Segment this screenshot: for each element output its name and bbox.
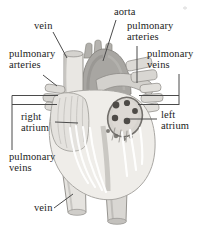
scan-artifact: [183, 6, 187, 10]
label-pulmonary-veins-right: pulmonary veins: [147, 48, 193, 71]
label-vein-top: vein: [34, 20, 52, 31]
label-aorta: aorta: [114, 6, 136, 17]
label-pulmonary-arteries-left: pulmonary arteries: [9, 48, 55, 71]
label-right-atrium: right atrium: [21, 111, 49, 134]
label-pulmonary-arteries-upper-right: pulmonary arteries: [127, 20, 173, 43]
label-left-atrium: left atrium: [161, 109, 189, 132]
label-vein-bottom: vein: [34, 202, 52, 213]
label-pulmonary-veins-lower-left: pulmonary veins: [9, 151, 55, 174]
heart-anatomy-figure: vein aorta pulmonary arteries pulmonary …: [0, 0, 200, 225]
